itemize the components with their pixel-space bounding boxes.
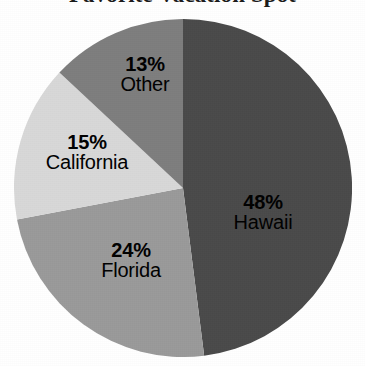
pie-label-hawaii-name: Hawaii (206, 212, 320, 232)
pie-label-other-percent: 13% (88, 54, 202, 74)
chart-title: Favorite Vacation Spot (0, 0, 365, 6)
pie-label-california-name: California (12, 152, 162, 172)
pie-label-hawaii-percent: 48% (206, 192, 320, 212)
pie-chart-figure: Favorite Vacation Spot 48% Hawaii 24% Fl… (0, 0, 365, 366)
pie-label-florida-name: Florida (72, 260, 190, 280)
pie-label-hawaii: 48% Hawaii (206, 192, 320, 233)
pie-label-california-percent: 15% (12, 132, 162, 152)
pie-slice-hawaii[interactable] (183, 19, 352, 356)
pie-label-florida-percent: 24% (72, 240, 190, 260)
pie-label-california: 15% California (12, 132, 162, 173)
pie-label-other-name: Other (88, 74, 202, 94)
chart-title-clip: Favorite Vacation Spot (0, 0, 365, 9)
pie-label-florida: 24% Florida (72, 240, 190, 281)
pie-label-other: 13% Other (88, 54, 202, 95)
